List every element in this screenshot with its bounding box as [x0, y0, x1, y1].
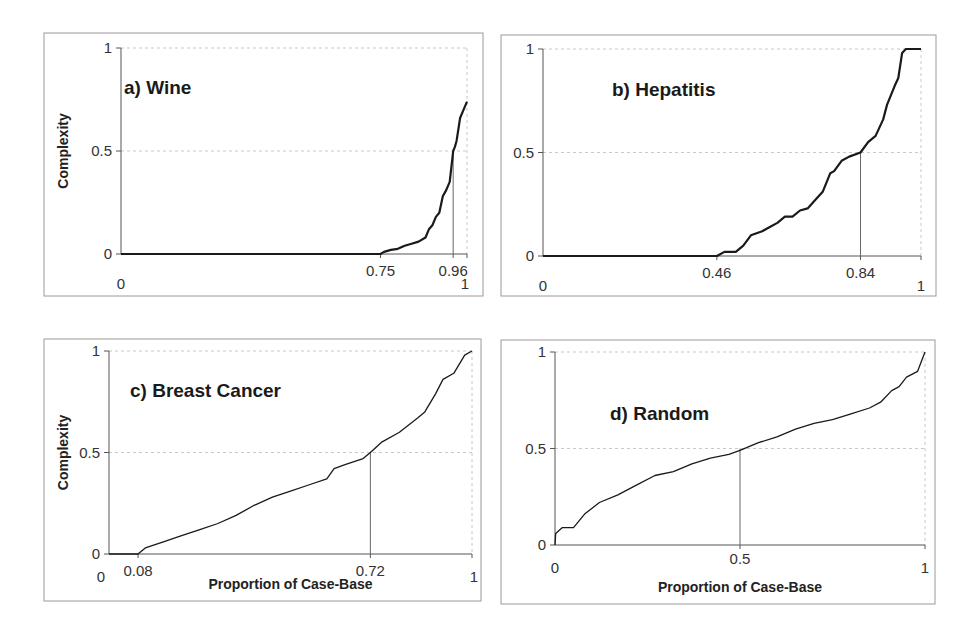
x-tick-label: 1	[461, 275, 469, 292]
y-axis-label: Complexity	[55, 113, 71, 189]
y-tick-label: 1	[104, 39, 112, 56]
y-tick-label: 0.5	[91, 142, 112, 159]
x-tick-label: 0	[539, 277, 547, 294]
y-tick-label: 0.5	[79, 444, 100, 461]
y-axis-label: Complexity	[55, 415, 71, 491]
y-tick-label: 0	[104, 245, 112, 262]
x-axis-label: Proportion of Case-Base	[208, 576, 372, 592]
panel-title: b) Hepatitis	[612, 79, 715, 100]
y-tick-label: 0.5	[513, 144, 534, 161]
x-tick-label: 0.75	[366, 262, 395, 279]
x-tick-label: 0	[97, 568, 105, 585]
chart-panel-a: 00.5100.750.961a) WineComplexity	[44, 33, 483, 296]
y-tick-label: 0	[526, 247, 534, 264]
x-tick-label: 0.08	[123, 562, 152, 579]
x-tick-label: 0.46	[702, 264, 731, 281]
x-axis-label: Proportion of Case-Base	[658, 579, 822, 595]
y-tick-label: 0	[538, 536, 546, 553]
chart-panel-c: 00.5100.080.721c) Breast CancerComplexit…	[44, 339, 481, 601]
x-tick-label: 1	[470, 568, 478, 585]
chart-panel-d: 00.5100.51d) RandomProportion of Case-Ba…	[501, 340, 935, 604]
panel-frame	[44, 339, 481, 601]
y-tick-label: 0	[92, 545, 100, 562]
x-tick-label: 0.84	[846, 264, 875, 281]
chart-panel-b: 00.5100.460.841b) Hepatitis	[501, 35, 936, 296]
x-tick-label: 0	[551, 559, 559, 576]
panel-frame	[501, 340, 935, 604]
y-tick-label: 1	[538, 343, 546, 360]
x-tick-label: 0	[117, 275, 125, 292]
panel-title: d) Random	[610, 403, 709, 424]
y-tick-label: 0.5	[525, 440, 546, 457]
x-tick-label: 1	[921, 559, 929, 576]
y-tick-label: 1	[92, 342, 100, 359]
panel-title: a) Wine	[124, 77, 191, 98]
x-tick-label: 0.5	[730, 550, 751, 567]
x-tick-label: 1	[917, 277, 925, 294]
panel-title: c) Breast Cancer	[130, 380, 282, 401]
figure-four-complexity-profiles: 00.5100.750.961a) WineComplexity00.5100.…	[0, 0, 971, 636]
y-tick-label: 1	[526, 40, 534, 57]
